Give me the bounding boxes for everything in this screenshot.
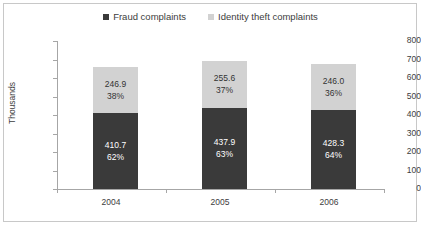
x-tick-label-2006: 2006 xyxy=(299,197,359,207)
legend-label-identity-theft-complaints: Identity theft complaints xyxy=(218,12,318,22)
bar-percent-label: 36% xyxy=(325,89,342,98)
y-axis-title: Thousands xyxy=(7,68,17,138)
bar-segment-identity-theft-2004[interactable]: 246.9 38% xyxy=(93,67,138,113)
legend-swatch-fraud-complaints xyxy=(103,14,109,20)
bar-segment-identity-theft-2005[interactable]: 255.6 37% xyxy=(202,61,247,108)
bar-segment-fraud-2004[interactable]: 410.7 62% xyxy=(93,113,138,189)
bar-value-label: 437.9 xyxy=(214,138,235,147)
bar-value-label: 246.9 xyxy=(105,80,126,89)
bar-percent-label: 37% xyxy=(216,86,233,95)
bar-percent-label: 64% xyxy=(325,151,342,160)
legend-label-fraud-complaints: Fraud complaints xyxy=(113,12,186,22)
legend-item-fraud-complaints[interactable]: Fraud complaints xyxy=(103,12,186,22)
x-tick-mark xyxy=(57,189,58,193)
x-tick-label-2004: 2004 xyxy=(81,197,141,207)
x-tick-label-2005: 2005 xyxy=(190,197,250,207)
bar-value-label: 255.6 xyxy=(214,74,235,83)
bar-segment-fraud-2005[interactable]: 437.9 63% xyxy=(202,108,247,189)
x-tick-mark xyxy=(275,189,276,193)
chart-legend: Fraud complaints Identity theft complain… xyxy=(0,12,421,22)
x-tick-mark xyxy=(166,189,167,193)
x-tick-mark xyxy=(384,189,385,193)
bar-percent-label: 38% xyxy=(107,92,124,101)
legend-swatch-identity-theft-complaints xyxy=(208,14,214,20)
plot-area: 246.9 38% 410.7 62% 255.6 37% 437.9 63% … xyxy=(57,41,384,189)
bar-percent-label: 62% xyxy=(107,153,124,162)
x-axis-line xyxy=(57,189,385,190)
bar-value-label: 410.7 xyxy=(105,141,126,150)
chart-container: Fraud complaints Identity theft complain… xyxy=(0,0,421,226)
bar-segment-identity-theft-2006[interactable]: 246.0 36% xyxy=(311,64,356,110)
bar-percent-label: 63% xyxy=(216,150,233,159)
bar-segment-fraud-2006[interactable]: 428.3 64% xyxy=(311,110,356,189)
bar-value-label: 428.3 xyxy=(323,139,344,148)
legend-item-identity-theft-complaints[interactable]: Identity theft complaints xyxy=(208,12,318,22)
bar-value-label: 246.0 xyxy=(323,77,344,86)
